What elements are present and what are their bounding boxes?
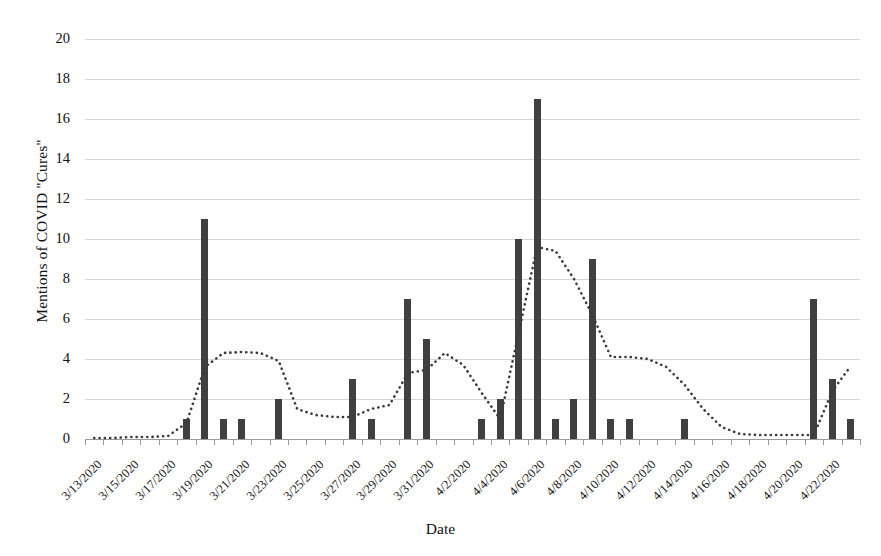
x-axis-tick — [473, 439, 474, 445]
y-axis-tick-label: 18 — [44, 71, 70, 86]
x-axis-tick — [454, 439, 455, 445]
x-axis-tick — [103, 439, 104, 445]
x-axis-tick — [620, 439, 621, 445]
x-axis-tick — [712, 439, 713, 445]
x-axis-tick — [731, 439, 732, 445]
x-axis-tick — [860, 439, 861, 445]
x-axis-tick — [436, 439, 437, 445]
x-axis-tick — [509, 439, 510, 445]
x-axis-tick — [842, 439, 843, 445]
x-axis-tick — [657, 439, 658, 445]
x-axis-tick — [343, 439, 344, 445]
y-axis-tick-label: 14 — [44, 151, 70, 166]
y-axis-tick-label: 8 — [44, 271, 70, 286]
x-axis-tick — [602, 439, 603, 445]
x-axis-tick — [583, 439, 584, 445]
y-axis-tick-label: 6 — [44, 311, 70, 326]
x-axis-tick — [786, 439, 787, 445]
y-axis-tick-label: 12 — [44, 191, 70, 206]
y-axis-tick-label: 0 — [44, 431, 70, 446]
x-axis-tick — [140, 439, 141, 445]
x-axis-tick — [380, 439, 381, 445]
x-axis-tick — [233, 439, 234, 445]
x-axis-tick — [214, 439, 215, 445]
x-axis-tick — [639, 439, 640, 445]
x-axis-tick — [528, 439, 529, 445]
x-axis-tick — [749, 439, 750, 445]
x-axis-tick — [251, 439, 252, 445]
y-axis-tick-label: 2 — [44, 391, 70, 406]
x-axis-tick — [306, 439, 307, 445]
x-axis-tick — [565, 439, 566, 445]
x-axis-tick — [491, 439, 492, 445]
x-axis-tick — [399, 439, 400, 445]
x-axis-tick — [85, 439, 86, 445]
chart-container: Mentions of COVID "Cures" 02468101214161… — [0, 0, 881, 556]
x-axis-tick — [823, 439, 824, 445]
plot-area — [85, 39, 860, 439]
x-axis-ticks — [85, 439, 860, 446]
x-axis-tick — [325, 439, 326, 445]
y-axis-tick-label: 20 — [44, 31, 70, 46]
y-axis-tick-label: 16 — [44, 111, 70, 126]
trend-line-series — [85, 39, 860, 439]
x-axis-tick — [177, 439, 178, 445]
y-axis-tick-label: 10 — [44, 231, 70, 246]
y-axis-tick-label: 4 — [44, 351, 70, 366]
x-axis-tick — [159, 439, 160, 445]
x-axis-tick — [270, 439, 271, 445]
x-axis-tick — [768, 439, 769, 445]
x-axis-tick — [417, 439, 418, 445]
x-axis-tick — [546, 439, 547, 445]
x-axis-title: Date — [0, 520, 881, 538]
x-axis-tick — [362, 439, 363, 445]
x-axis-tick — [694, 439, 695, 445]
x-axis-tick — [675, 439, 676, 445]
x-axis-tick — [122, 439, 123, 445]
trend-line-path — [94, 247, 851, 438]
x-axis-tick — [805, 439, 806, 445]
x-axis-tick — [288, 439, 289, 445]
x-axis-tick — [196, 439, 197, 445]
